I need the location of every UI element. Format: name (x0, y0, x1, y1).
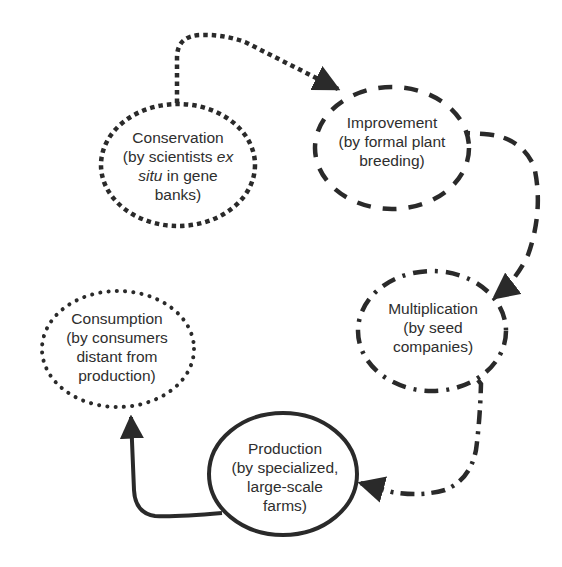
multiplication-line-3: companies) (388, 337, 478, 356)
node-consumption-label: Consumption (by consumers distant from p… (66, 309, 168, 385)
production-title: Production (232, 439, 339, 458)
consumption-line-2: (by consumers (66, 328, 168, 347)
conservation-title: Conservation (123, 128, 233, 147)
node-improvement-label: Improvement (by formal plant breeding) (339, 113, 446, 170)
node-conservation-label: Conservation (by scientists ex situ in g… (123, 128, 233, 204)
production-line-4: farms) (232, 496, 339, 515)
edge-improvement-to-multiplication (466, 133, 538, 298)
multiplication-title: Multiplication (388, 299, 478, 318)
production-line-3: large-scale (232, 477, 339, 496)
conservation-line-4: banks) (123, 185, 233, 204)
consumption-title: Consumption (66, 309, 168, 328)
conservation-line-3: situ in gene (123, 166, 233, 185)
conservation-line-2: (by scientists ex (123, 147, 233, 166)
multiplication-line-2: (by seed (388, 318, 478, 337)
improvement-title: Improvement (339, 113, 446, 132)
edge-conservation-to-improvement (177, 35, 338, 103)
node-multiplication-label: Multiplication (by seed companies) (388, 299, 478, 356)
node-production-label: Production (by specialized, large-scale … (232, 439, 339, 515)
edge-multiplication-to-production (360, 380, 481, 494)
improvement-line-3: breeding) (339, 151, 446, 170)
consumption-line-3: distant from (66, 347, 168, 366)
improvement-line-2: (by formal plant (339, 132, 446, 151)
production-line-2: (by specialized, (232, 458, 339, 477)
consumption-line-4: production) (66, 366, 168, 385)
